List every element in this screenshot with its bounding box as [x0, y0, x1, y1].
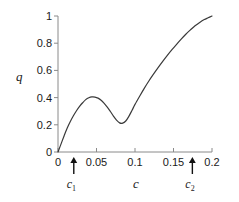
threshold-label-c1: c1: [67, 178, 76, 193]
threshold-label-subscript: 2: [191, 184, 195, 193]
threshold-label-subscript: 1: [72, 184, 76, 193]
y-tick-label: 0.2: [22, 120, 52, 131]
y-tick-label: 0.4: [22, 93, 52, 104]
chart-figure: 00.20.40.60.81 00.050.10.150.2 c1c2 q c: [0, 0, 239, 202]
x-tick-label: 0.2: [195, 157, 229, 168]
data-series-line: [58, 16, 212, 152]
x-tick-label: 0: [41, 157, 75, 168]
y-tick-label: 1: [22, 11, 52, 22]
x-axis-ticks: [58, 148, 212, 152]
y-axis-title: q: [16, 70, 23, 83]
y-tick-label: 0.8: [22, 38, 52, 49]
x-tick-label: 0.1: [118, 157, 152, 168]
x-tick-label: 0.05: [80, 157, 114, 168]
threshold-label-c2: c2: [185, 178, 194, 193]
x-tick-label: 0.15: [157, 157, 191, 168]
y-axis-ticks: [54, 16, 58, 152]
y-tick-label: 0.6: [22, 65, 52, 76]
x-axis-title: c: [133, 177, 139, 190]
